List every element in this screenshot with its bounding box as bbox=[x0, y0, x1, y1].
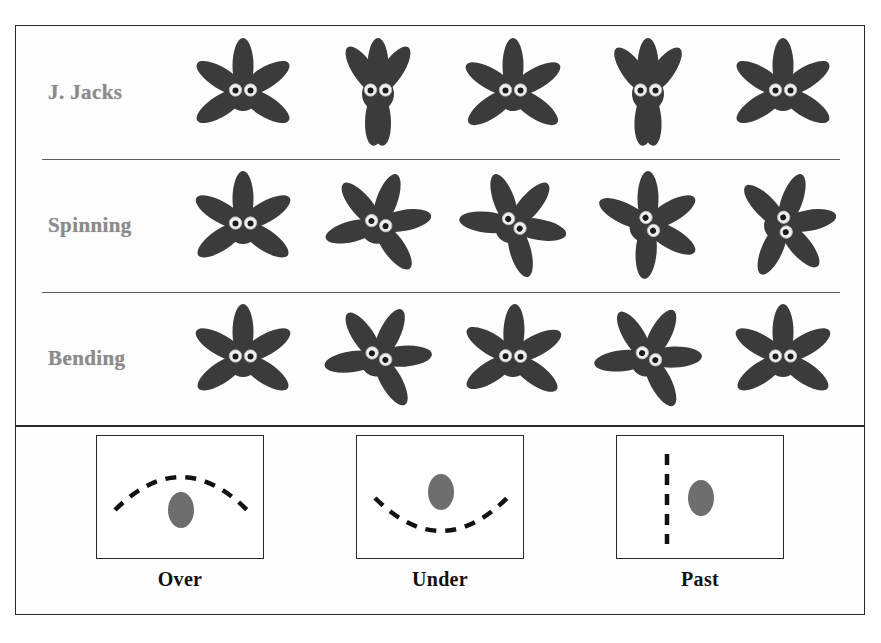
figure-strip-j-jacks bbox=[176, 26, 864, 159]
legend-box-under bbox=[356, 435, 524, 559]
creature-figure bbox=[314, 30, 442, 156]
action-row-bending: Bending bbox=[16, 292, 864, 425]
action-row-j-jacks: J. Jacks bbox=[16, 26, 864, 159]
creature-figure bbox=[179, 163, 307, 289]
creature-figure bbox=[719, 296, 847, 422]
legend-item-under: Under bbox=[356, 435, 524, 591]
creature-figure bbox=[314, 296, 442, 422]
creature-figure bbox=[719, 30, 847, 156]
legend-box-past bbox=[616, 435, 784, 559]
creature-figure bbox=[179, 30, 307, 156]
figure-frame: J. Jacks Spinning Bending Over Under Pas… bbox=[15, 25, 865, 615]
reference-ball bbox=[688, 480, 714, 516]
reference-ball bbox=[428, 474, 454, 510]
creature-figure bbox=[584, 163, 712, 289]
legend-caption-over: Over bbox=[158, 568, 203, 591]
creature-figure bbox=[314, 163, 442, 289]
legend-item-over: Over bbox=[96, 435, 264, 591]
figure-strip-bending bbox=[176, 292, 864, 425]
row-label-bending: Bending bbox=[16, 346, 176, 371]
row-label-j-jacks: J. Jacks bbox=[16, 80, 176, 105]
row-label-spinning: Spinning bbox=[16, 213, 176, 238]
legend-caption-under: Under bbox=[412, 568, 468, 591]
legend-band: Over Under Past bbox=[16, 425, 864, 614]
legend-box-over bbox=[96, 435, 264, 559]
creature-figure bbox=[449, 296, 577, 422]
creature-figure bbox=[584, 296, 712, 422]
legend-item-past: Past bbox=[616, 435, 784, 591]
figure-strip-spinning bbox=[176, 159, 864, 292]
creature-figure bbox=[449, 30, 577, 156]
creature-figure bbox=[719, 163, 847, 289]
creature-figure bbox=[449, 163, 577, 289]
legend-caption-past: Past bbox=[681, 568, 719, 591]
action-row-spinning: Spinning bbox=[16, 159, 864, 292]
creature-figure bbox=[179, 296, 307, 422]
creature-figure bbox=[584, 30, 712, 156]
reference-ball bbox=[168, 492, 194, 528]
